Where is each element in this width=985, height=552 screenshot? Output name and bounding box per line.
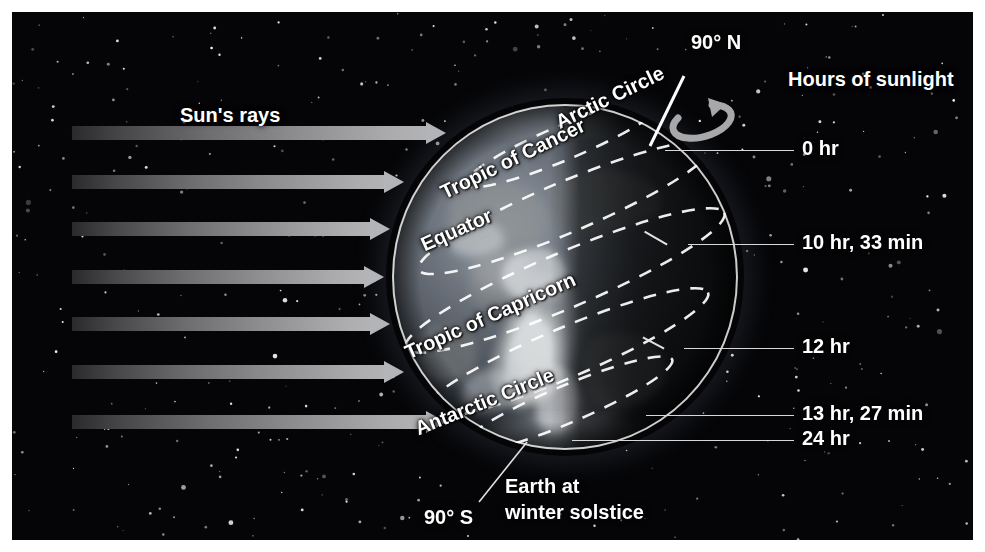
south-pole-label: 90° S bbox=[424, 506, 473, 529]
sunlight-value-equator: 12 hr bbox=[802, 335, 850, 358]
sunlight-leader-line-equator bbox=[684, 348, 794, 349]
sun-ray-arrowhead bbox=[370, 313, 390, 335]
sun-ray-arrow bbox=[72, 266, 384, 288]
hours-of-sunlight-label: Hours of sunlight bbox=[788, 68, 954, 91]
sun-ray-shaft bbox=[72, 270, 364, 284]
sunlight-value-antarctic-circle: 24 hr bbox=[802, 427, 850, 450]
spin-arrow-icon bbox=[673, 105, 731, 138]
sun-ray-arrow bbox=[72, 361, 404, 383]
sun-ray-shaft bbox=[72, 365, 384, 379]
sunlight-leader-line-tropic-of-capricorn bbox=[646, 415, 794, 416]
sun-ray-arrow bbox=[72, 218, 390, 240]
sun-ray-arrow bbox=[72, 171, 404, 193]
sun-ray-shaft bbox=[72, 175, 384, 189]
space-background: Sun's rays Hours of sunlight bbox=[12, 12, 973, 540]
sunlight-leader-line-antarctic-circle bbox=[572, 440, 794, 441]
sun-ray-shaft bbox=[72, 317, 370, 331]
sun-rays-label: Sun's rays bbox=[180, 104, 280, 127]
sun-ray-shaft bbox=[72, 415, 426, 429]
sun-ray-arrowhead bbox=[364, 266, 384, 288]
sunlight-value-tropic-of-cancer: 10 hr, 33 min bbox=[802, 231, 923, 254]
sunlight-leader-line-arctic-circle bbox=[665, 150, 794, 151]
sunlight-value-tropic-of-capricorn: 13 hr, 27 min bbox=[802, 402, 923, 425]
sun-ray-shaft bbox=[72, 222, 370, 236]
sun-ray-shaft bbox=[72, 126, 426, 140]
sun-ray-arrowhead bbox=[370, 218, 390, 240]
earth-caption-line-1: Earth at bbox=[505, 475, 579, 498]
north-pole-label: 90° N bbox=[691, 31, 741, 54]
earth-caption-line-2: winter solstice bbox=[505, 501, 644, 524]
sun-ray-arrow bbox=[72, 313, 390, 335]
sunlight-leader-line-tropic-of-cancer bbox=[688, 244, 794, 245]
sunlight-value-arctic-circle: 0 hr bbox=[802, 137, 839, 160]
sun-ray-arrow bbox=[72, 411, 446, 433]
figure-root: Sun's rays Hours of sunlight bbox=[0, 0, 985, 552]
